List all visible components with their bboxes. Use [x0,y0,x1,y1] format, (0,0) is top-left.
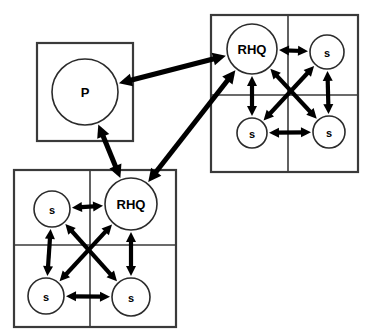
node-s-top-se-label: s [326,127,332,139]
node-s-top-ne[interactable]: s [310,35,344,69]
link-s-ne-to-s-se-top-shaft [328,76,329,108]
node-rhq-top-label: RHQ [238,42,267,57]
node-s-bot-sw[interactable]: s [28,278,64,314]
node-s-top-ne-label: s [324,47,330,59]
node-rhq-top[interactable]: RHQ [227,24,277,74]
node-p-label: P [81,85,90,100]
diagram-canvas: PRHQsssRHQsss [0,0,378,335]
box-layer [14,15,358,327]
node-s-bot-se-label: s [128,292,134,304]
node-s-top-sw-label: s [249,128,255,140]
node-s-bot-nw-label: s [49,204,55,216]
node-rhq-bot[interactable]: RHQ [105,178,157,230]
node-s-bot-se[interactable]: s [112,278,150,316]
node-p[interactable]: P [52,59,118,125]
link-p-to-rhq-top [119,53,226,87]
link-p-to-rhq-top-shaft [126,58,219,82]
node-s-bot-sw-label: s [43,291,49,303]
node-rhq-bot-label: RHQ [117,197,146,212]
node-s-top-se[interactable]: s [313,116,345,148]
link-s-nw-to-s-sw-bottom-shaft [48,234,50,270]
node-s-top-sw[interactable]: s [237,118,267,148]
node-s-bot-nw[interactable]: s [34,191,70,227]
diagram-svg: PRHQsssRHQsss [0,0,378,335]
